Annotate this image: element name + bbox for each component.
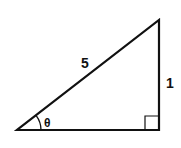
angle-label: θ (44, 116, 51, 130)
right-triangle-diagram: 5 1 θ (0, 0, 181, 148)
hypotenuse-label: 5 (81, 55, 89, 71)
side-label: 1 (166, 75, 174, 91)
triangle (17, 20, 159, 130)
right-angle-marker (145, 116, 159, 130)
angle-arc (36, 116, 41, 130)
